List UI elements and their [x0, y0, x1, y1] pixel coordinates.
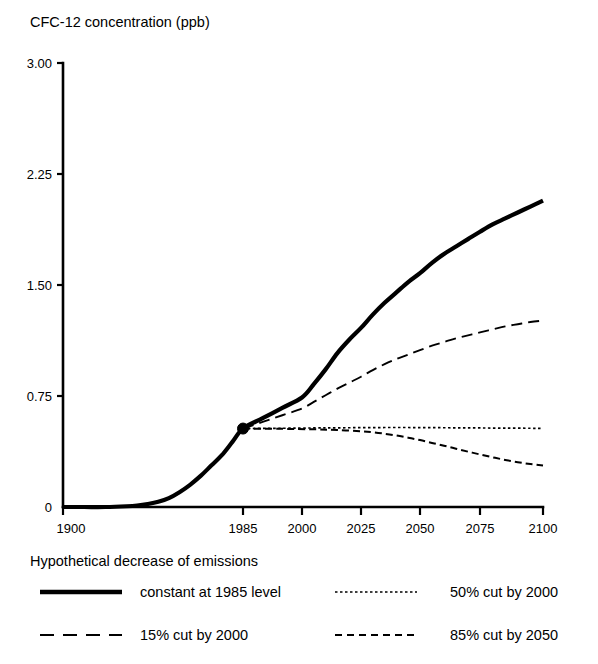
legend-label: 85% cut by 2050 — [450, 627, 558, 643]
x-tick-label: 2075 — [466, 521, 495, 536]
y-tick-label: 3.00 — [27, 56, 52, 71]
legend-label: 50% cut by 2000 — [450, 584, 558, 600]
legend-label: 15% cut by 2000 — [140, 627, 248, 643]
x-tick-label: 1900 — [57, 521, 86, 536]
y-tick-label: 1.50 — [27, 278, 52, 293]
x-tick-label: 2100 — [529, 521, 558, 536]
cfc12-concentration-chart: CFC-12 concentration (ppb) 00.751.502.25… — [0, 0, 598, 664]
x-tick-label: 1985 — [229, 521, 258, 536]
x-tick-label: 2000 — [288, 521, 317, 536]
y-tick-label: 0 — [45, 500, 52, 515]
legend-title: Hypothetical decrease of emissions — [30, 553, 258, 569]
branch-point-marker — [238, 423, 249, 434]
x-tick-label: 2050 — [406, 521, 435, 536]
legend-label: constant at 1985 level — [140, 584, 281, 600]
x-tick-label: 2025 — [347, 521, 376, 536]
y-tick-label: 2.25 — [27, 167, 52, 182]
chart-title: CFC-12 concentration (ppb) — [30, 14, 210, 30]
y-tick-label: 0.75 — [27, 389, 52, 404]
annotation-markers — [238, 423, 249, 434]
